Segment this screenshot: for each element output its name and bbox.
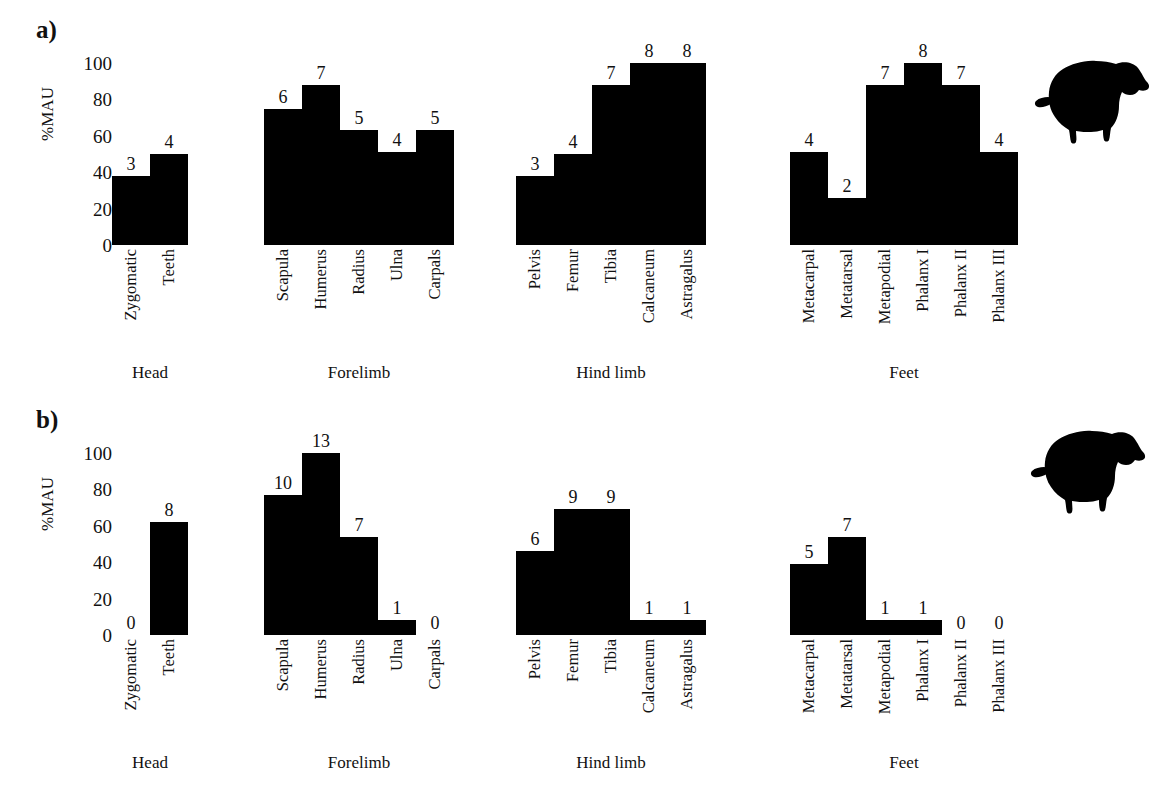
bar-value-label: 1 [866, 599, 904, 617]
y-axis-tick: 0 [103, 626, 113, 645]
bar-cell: 7 [302, 63, 340, 245]
bar [592, 85, 630, 245]
bar-value-label: 4 [554, 133, 592, 151]
y-axis-tick: 20 [93, 199, 112, 218]
group-title: Head [112, 753, 188, 773]
bar-cell: 3 [112, 63, 150, 245]
category-label: Phalanx I [915, 249, 932, 312]
bar-cell: 1 [904, 453, 942, 635]
bar-value-label: 8 [904, 42, 942, 60]
bar-value-label: 8 [630, 42, 668, 60]
category-label-cell: Femur [554, 635, 592, 750]
bar-cell: 4 [378, 63, 416, 245]
bar-cell: 7 [828, 453, 866, 635]
bar-cell: 0 [112, 453, 150, 635]
group-title: Feet [790, 753, 1018, 773]
category-label-cell: Metacarpal [790, 635, 828, 750]
bar [340, 537, 378, 635]
category-label-cell: Pelvis [516, 245, 554, 360]
group-title: Hind limb [516, 753, 706, 773]
bar-cell: 4 [790, 63, 828, 245]
bar-cell: 5 [790, 453, 828, 635]
bar-value-label: 0 [980, 614, 1018, 632]
bar-cell: 3 [516, 63, 554, 245]
bar [668, 63, 706, 245]
category-label: Phalanx II [953, 249, 970, 317]
category-label: Radius [351, 249, 368, 295]
bar-value-label: 5 [340, 109, 378, 127]
bar-value-label: 7 [828, 516, 866, 534]
category-label-cell: Astragalus [668, 635, 706, 750]
category-labels: MetacarpalMetatarsalMetapodialPhalanx IP… [790, 245, 1018, 360]
bar-cell: 6 [264, 63, 302, 245]
bar-value-label: 8 [668, 42, 706, 60]
bar-cell: 0 [416, 453, 454, 635]
category-label-cell: Metacarpal [790, 245, 828, 360]
bar-group: 34ZygomaticTeethHead [112, 63, 188, 245]
bar-cell: 1 [668, 453, 706, 635]
category-label-cell: Carpals [416, 635, 454, 750]
category-label-cell: Carpals [416, 245, 454, 360]
bar-value-label: 1 [668, 599, 706, 617]
category-label-cell: Ulna [378, 245, 416, 360]
panel-b-y-axis-label: %MAU [38, 444, 58, 564]
bar [378, 152, 416, 245]
bar-value-label: 4 [150, 133, 188, 151]
category-label: Teeth [161, 249, 178, 285]
category-label: Phalanx II [953, 639, 970, 707]
category-label-cell: Phalanx I [904, 635, 942, 750]
bar-cell: 1 [630, 453, 668, 635]
category-label-cell: Calcaneum [630, 635, 668, 750]
category-labels: ScapulaHumerusRadiusUlnaCarpals [264, 635, 454, 750]
category-label-cell: Metapodial [866, 245, 904, 360]
y-axis-tick: 40 [93, 553, 112, 572]
bar-cell: 6 [516, 453, 554, 635]
bar-value-label: 6 [264, 88, 302, 106]
bar-value-label: 0 [942, 614, 980, 632]
category-label: Scapula [275, 639, 292, 691]
group-title: Forelimb [264, 363, 454, 383]
bar [264, 495, 302, 635]
bars-container: 67545 [264, 63, 454, 245]
category-label-cell: Metatarsal [828, 245, 866, 360]
y-axis-tick: 0 [103, 236, 113, 255]
bar-cell: 9 [554, 453, 592, 635]
category-label: Astragalus [679, 639, 696, 710]
bar [554, 154, 592, 245]
bar [416, 130, 454, 245]
bar-cell: 5 [340, 63, 378, 245]
bar-cell: 7 [942, 63, 980, 245]
category-label: Metatarsal [839, 249, 856, 319]
y-axis-tick: 100 [84, 54, 113, 73]
bar-value-label: 7 [592, 64, 630, 82]
y-axis-tick: 20 [93, 589, 112, 608]
bar-value-label: 7 [302, 64, 340, 82]
group-title: Head [112, 363, 188, 383]
category-label-cell: Femur [554, 245, 592, 360]
category-labels: PelvisFemurTibiaCalcaneumAstragalus [516, 245, 706, 360]
bar [904, 620, 942, 635]
category-label: Tibia [603, 249, 620, 283]
bar-cell: 7 [866, 63, 904, 245]
bar [630, 63, 668, 245]
bar [904, 63, 942, 245]
bar-value-label: 1 [630, 599, 668, 617]
bar [112, 176, 150, 245]
bar-cell: 4 [980, 63, 1018, 245]
bar-group: 427874MetacarpalMetatarsalMetapodialPhal… [790, 63, 1018, 245]
bar-cell: 8 [630, 63, 668, 245]
panel-a-label: a) [36, 16, 57, 44]
bar [790, 152, 828, 245]
y-axis-tick: 60 [93, 516, 112, 535]
category-label-cell: Scapula [264, 245, 302, 360]
y-axis-tick: 60 [93, 126, 112, 145]
bar-value-label: 9 [592, 488, 630, 506]
category-label: Tibia [603, 639, 620, 673]
bar-value-label: 3 [516, 155, 554, 173]
category-label-cell: Phalanx II [942, 635, 980, 750]
panel-b-label: b) [36, 406, 58, 434]
bar-cell: 4 [150, 63, 188, 245]
bars-container: 34 [112, 63, 188, 245]
bar-group: 69911PelvisFemurTibiaCalcaneumAstragalus… [516, 453, 706, 635]
category-label: Femur [565, 249, 582, 292]
